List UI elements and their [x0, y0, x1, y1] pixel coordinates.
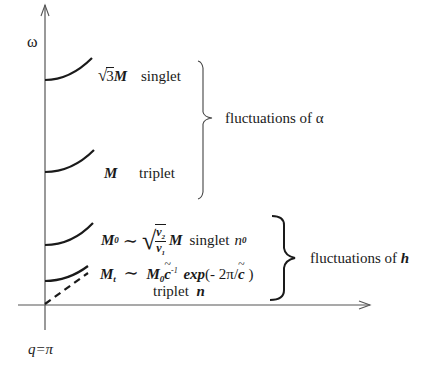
y-axis-label: ω: [27, 34, 38, 50]
brace-alpha: [198, 61, 212, 199]
label-Mt-triplet: triplet n: [153, 284, 205, 299]
sqrt-expression: √3: [98, 67, 114, 84]
curve-M0-singlet: [45, 223, 93, 245]
label-sqrt3M-singlet: √3 M singlet: [98, 67, 181, 84]
label-M0-singlet: M0 ∼ √ v2 v1 M singlet n0: [101, 224, 246, 258]
x-axis-label: q=π: [28, 342, 53, 357]
group-label-h: fluctuations of h: [310, 251, 409, 266]
curve-sqrt3M-singlet: [45, 58, 92, 80]
x-axis: [18, 301, 370, 309]
group-label-alpha: fluctuations of α: [225, 111, 324, 126]
curve-M-triplet: [45, 150, 94, 172]
curve-Mt-triplet: [45, 266, 88, 281]
diagram-canvas: [0, 0, 427, 372]
sqrt-fraction: √ v2 v1: [142, 224, 166, 258]
brace-h: [270, 216, 295, 300]
label-Mt-relation: Mt ∼ M0c-1 exp(- 2π/c ): [100, 264, 253, 284]
label-M-triplet: M triplet: [104, 166, 175, 181]
